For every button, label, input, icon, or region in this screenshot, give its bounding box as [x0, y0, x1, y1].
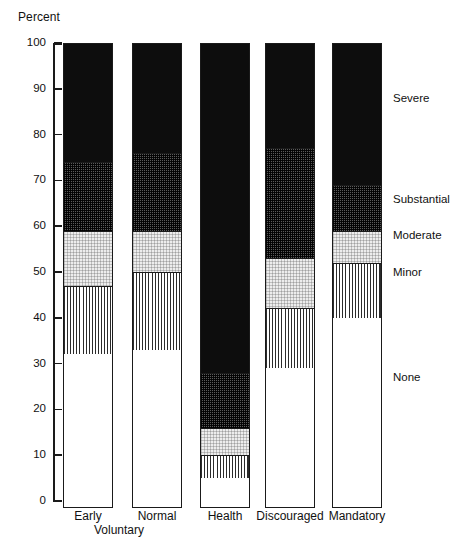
y-tick-label: 10 [14, 449, 46, 461]
y-tick-mark [54, 454, 62, 456]
y-tick-mark [54, 180, 62, 182]
segment-none[interactable] [333, 318, 381, 501]
y-tick-label: 40 [14, 312, 46, 324]
legend-label-moderate: Moderate [393, 229, 442, 241]
segment-minor[interactable] [201, 455, 249, 478]
y-tick-mark [54, 409, 62, 411]
segment-none[interactable] [64, 354, 112, 501]
segment-none[interactable] [201, 478, 249, 501]
segment-moderate[interactable] [133, 231, 181, 272]
segment-severe[interactable] [133, 43, 181, 153]
y-tick-label: 30 [14, 358, 46, 370]
y-tick-label: 60 [14, 220, 46, 232]
x-axis-group-label: Voluntary [94, 524, 144, 537]
segment-none[interactable] [266, 368, 314, 501]
segment-substantial[interactable] [201, 373, 249, 428]
legend-label-none: None [393, 371, 421, 383]
x-tick-bracket [332, 501, 382, 508]
y-tick-mark [54, 88, 62, 90]
y-tick-label: 70 [14, 174, 46, 186]
segment-severe[interactable] [266, 43, 314, 148]
segment-moderate[interactable] [266, 258, 314, 308]
y-tick-mark [54, 317, 62, 319]
segment-substantial[interactable] [133, 153, 181, 231]
y-tick-label: 20 [14, 403, 46, 415]
segment-minor[interactable] [266, 308, 314, 368]
bar-health[interactable] [200, 43, 250, 501]
segment-moderate[interactable] [64, 231, 112, 286]
y-tick-label: 0 [14, 495, 46, 507]
segment-severe[interactable] [333, 43, 381, 185]
legend-label-minor: Minor [393, 266, 422, 278]
y-tick-label: 80 [14, 129, 46, 141]
segment-severe[interactable] [64, 43, 112, 162]
bar-mandatory[interactable] [332, 43, 382, 501]
segment-minor[interactable] [133, 272, 181, 350]
x-tick-bracket [200, 501, 250, 508]
y-tick-mark [54, 271, 62, 273]
y-tick-mark [54, 225, 62, 227]
bar-discouraged[interactable] [265, 43, 315, 501]
bar-early[interactable] [63, 43, 113, 501]
segment-none[interactable] [133, 350, 181, 501]
segment-severe[interactable] [201, 43, 249, 373]
y-tick-label: 90 [14, 83, 46, 95]
y-tick-label: 100 [14, 37, 46, 49]
x-axis-label-mandatory: Mandatory [302, 510, 412, 523]
segment-moderate[interactable] [333, 231, 381, 263]
y-tick-mark [54, 500, 62, 502]
y-axis-title: Percent [18, 10, 60, 24]
y-tick-mark [54, 42, 62, 44]
segment-minor[interactable] [64, 286, 112, 355]
segment-substantial[interactable] [266, 148, 314, 258]
y-tick-label: 50 [14, 266, 46, 278]
y-tick-mark [54, 134, 62, 136]
segment-substantial[interactable] [64, 162, 112, 231]
y-tick-mark [54, 363, 62, 365]
segment-substantial[interactable] [333, 185, 381, 231]
legend-label-severe: Severe [393, 92, 429, 104]
x-tick-bracket [265, 501, 315, 508]
bar-normal[interactable] [132, 43, 182, 501]
x-tick-bracket [63, 501, 113, 508]
legend-label-substantial: Substantial [393, 193, 450, 205]
segment-minor[interactable] [333, 263, 381, 318]
segment-moderate[interactable] [201, 428, 249, 455]
x-tick-bracket [132, 501, 182, 508]
